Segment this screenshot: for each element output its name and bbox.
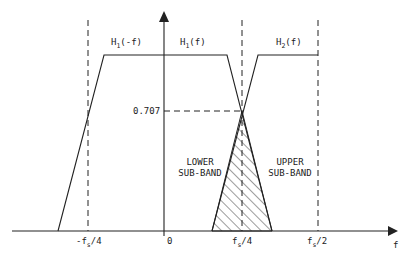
tick-fs2: fs/2 [307,236,327,249]
label-upper-subband-1: UPPER [276,157,304,167]
y-axis-arrow-icon [159,11,169,22]
tick-fs4: fs/4 [232,236,252,249]
label-h1-neg-f: H1(-f) [111,37,142,50]
label-lower-subband-2: SUB-BAND [178,168,221,178]
label-0707: 0.707 [133,106,160,116]
label-upper-subband-2: SUB-BAND [268,168,311,178]
x-axis-label: f [393,240,398,250]
label-h1-f: H1(f) [180,37,206,50]
label-h2-f: H2(f) [276,37,302,50]
tick-zero: 0 [167,236,172,246]
x-axis-arrow-icon [388,226,398,236]
tick-neg-fs4: -fs/4 [76,236,102,249]
label-lower-subband-1: LOWER [186,157,214,167]
qmf-frequency-response-diagram: H1(-f) H1(f) H2(f) 0.707 LOWER SUB-BAND … [0,0,407,258]
